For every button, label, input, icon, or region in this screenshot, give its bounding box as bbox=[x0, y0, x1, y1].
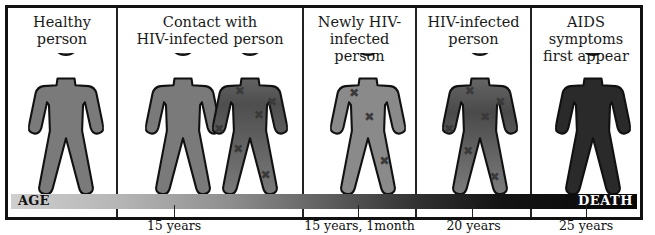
panel-title-hiv-infected: HIV-infected person bbox=[417, 14, 530, 48]
aids-figure bbox=[553, 53, 633, 195]
svg-text:✖: ✖ bbox=[465, 84, 475, 98]
tick-mark bbox=[472, 205, 473, 217]
tick-mark bbox=[358, 205, 359, 217]
panel-title-contact: Contact with HIV-infected person bbox=[118, 14, 302, 48]
age-timeline-bar: AGE DEATH bbox=[11, 194, 637, 209]
svg-text:✖: ✖ bbox=[233, 142, 243, 156]
svg-text:✖: ✖ bbox=[214, 122, 224, 136]
healthy-person-figure bbox=[26, 53, 106, 195]
year-label-15: 15 years bbox=[118, 218, 230, 233]
svg-text:✖: ✖ bbox=[260, 168, 270, 182]
svg-text:✖: ✖ bbox=[267, 95, 277, 109]
infected-contact-figure: ✖✖✖ ✖✖✖ bbox=[210, 53, 290, 195]
title-line: person bbox=[417, 31, 530, 48]
year-label-25: 25 years bbox=[532, 218, 640, 233]
year-label-15-1month: 15 years, 1month bbox=[304, 218, 415, 233]
svg-text:✖: ✖ bbox=[489, 170, 499, 184]
svg-text:✖: ✖ bbox=[254, 108, 264, 122]
svg-text:✖: ✖ bbox=[480, 110, 490, 124]
tick-mark bbox=[586, 205, 587, 217]
panel-title-healthy: Healthy person bbox=[8, 14, 116, 48]
svg-text:✖: ✖ bbox=[379, 154, 389, 168]
svg-text:✖: ✖ bbox=[235, 84, 245, 98]
title-line: Contact with bbox=[118, 14, 302, 31]
title-line: HIV-infected person bbox=[118, 31, 302, 48]
year-label-20: 20 years bbox=[417, 218, 530, 233]
svg-text:✖: ✖ bbox=[495, 95, 505, 109]
title-line: person bbox=[8, 31, 116, 48]
svg-text:✖: ✖ bbox=[349, 86, 359, 100]
title-line: HIV-infected bbox=[417, 14, 530, 31]
newly-infected-figure: ✖✖✖ bbox=[328, 53, 408, 195]
title-line: AIDS symptoms bbox=[532, 14, 640, 48]
svg-text:✖: ✖ bbox=[463, 144, 473, 158]
title-line: Healthy bbox=[8, 14, 116, 31]
tick-mark bbox=[174, 205, 175, 217]
svg-text:✖: ✖ bbox=[364, 110, 374, 124]
svg-text:✖: ✖ bbox=[444, 122, 454, 136]
diagram-frame: Healthy person Contact with HIV-infected… bbox=[5, 5, 643, 220]
title-line: Newly HIV- bbox=[304, 14, 415, 31]
hiv-infected-figure: ✖✖✖ ✖✖✖ bbox=[440, 53, 520, 195]
age-label: AGE bbox=[18, 193, 50, 208]
